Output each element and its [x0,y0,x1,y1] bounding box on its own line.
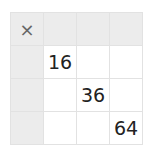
product-cell[interactable] [77,46,110,79]
header-cell[interactable] [110,13,143,46]
header-cell[interactable] [44,13,77,46]
row-header-cell[interactable] [11,79,44,112]
operator-cell: × [11,13,44,46]
product-cell[interactable] [110,79,143,112]
row-header-cell[interactable] [11,46,44,79]
product-cell[interactable] [44,79,77,112]
header-row: × [11,13,143,46]
row-header-cell[interactable] [11,112,44,145]
table-row: 16 [11,46,143,79]
product-cell[interactable] [44,112,77,145]
product-cell[interactable]: 16 [44,46,77,79]
product-cell[interactable]: 64 [110,112,143,145]
header-cell[interactable] [77,13,110,46]
table-row: 64 [11,112,143,145]
product-cell[interactable]: 36 [77,79,110,112]
product-cell[interactable] [110,46,143,79]
multiplication-grid: × 16 36 64 [10,12,143,145]
product-cell[interactable] [77,112,110,145]
table-row: 36 [11,79,143,112]
